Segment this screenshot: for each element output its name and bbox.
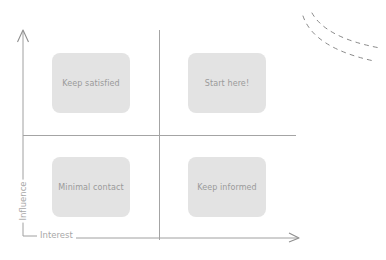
- quadrant-label: Minimal contact: [58, 183, 123, 192]
- quadrant-minimal-contact: Minimal contact: [52, 157, 130, 217]
- quadrant-label: Keep satisfied: [62, 79, 119, 88]
- quadrant-label: Keep informed: [197, 183, 257, 192]
- y-axis-label: Influence: [18, 179, 28, 222]
- quadrant-start-here: Start here!: [188, 53, 266, 113]
- quadrant-keep-informed: Keep informed: [188, 157, 266, 217]
- quadrant-keep-satisfied: Keep satisfied: [52, 53, 130, 113]
- decorative-arcs-icon: [303, 13, 380, 61]
- stakeholder-matrix-diagram: Keep satisfied Start here! Minimal conta…: [0, 0, 386, 260]
- quadrant-label: Start here!: [205, 79, 249, 88]
- matrix-lines: [0, 0, 386, 260]
- x-axis-label: Interest: [38, 230, 75, 240]
